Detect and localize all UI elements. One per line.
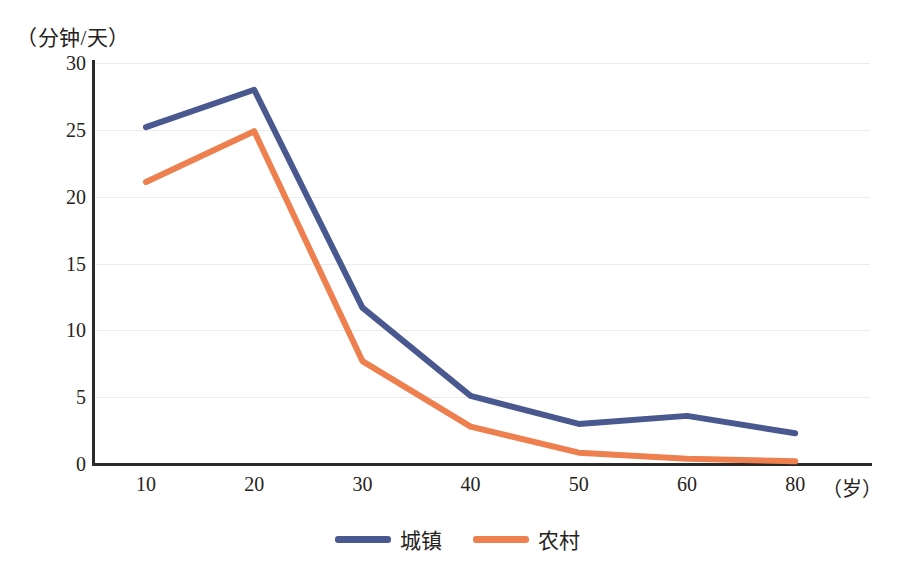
x-axis-unit-label: （岁） — [822, 473, 882, 502]
x-axis-tick-label: 30 — [322, 473, 402, 496]
gridline — [94, 330, 870, 331]
legend-item: 农村 — [473, 524, 581, 554]
legend-swatch-icon — [335, 536, 391, 543]
legend-label: 农村 — [538, 524, 581, 554]
x-axis-tick-label: 20 — [214, 473, 294, 496]
x-axis-tick-label: 50 — [539, 473, 619, 496]
legend-item: 城镇 — [335, 524, 443, 554]
line-chart: （分钟/天） 051015202530 10203040506080 （岁） 城… — [0, 0, 915, 584]
y-axis-tick-label: 25 — [16, 118, 86, 141]
plot-area — [94, 63, 870, 464]
y-axis-tick-labels: 051015202530 — [0, 0, 86, 584]
x-axis-tick-label: 60 — [647, 473, 727, 496]
y-axis-line — [92, 60, 95, 466]
y-axis-tick-label: 10 — [16, 319, 86, 342]
x-axis-tick-label: 10 — [106, 473, 186, 496]
y-axis-tick-label: 0 — [16, 453, 86, 476]
chart-legend: 城镇农村 — [0, 524, 915, 554]
gridline — [94, 264, 870, 265]
y-axis-tick-label: 5 — [16, 386, 86, 409]
gridline — [94, 397, 870, 398]
legend-label: 城镇 — [400, 524, 443, 554]
y-axis-tick-label: 30 — [16, 52, 86, 75]
gridline — [94, 197, 870, 198]
gridline — [94, 130, 870, 131]
x-axis-tick-label: 40 — [431, 473, 511, 496]
gridline — [94, 63, 870, 64]
y-axis-tick-label: 20 — [16, 185, 86, 208]
legend-swatch-icon — [473, 536, 529, 543]
x-axis-line — [92, 463, 872, 466]
y-axis-tick-label: 15 — [16, 252, 86, 275]
